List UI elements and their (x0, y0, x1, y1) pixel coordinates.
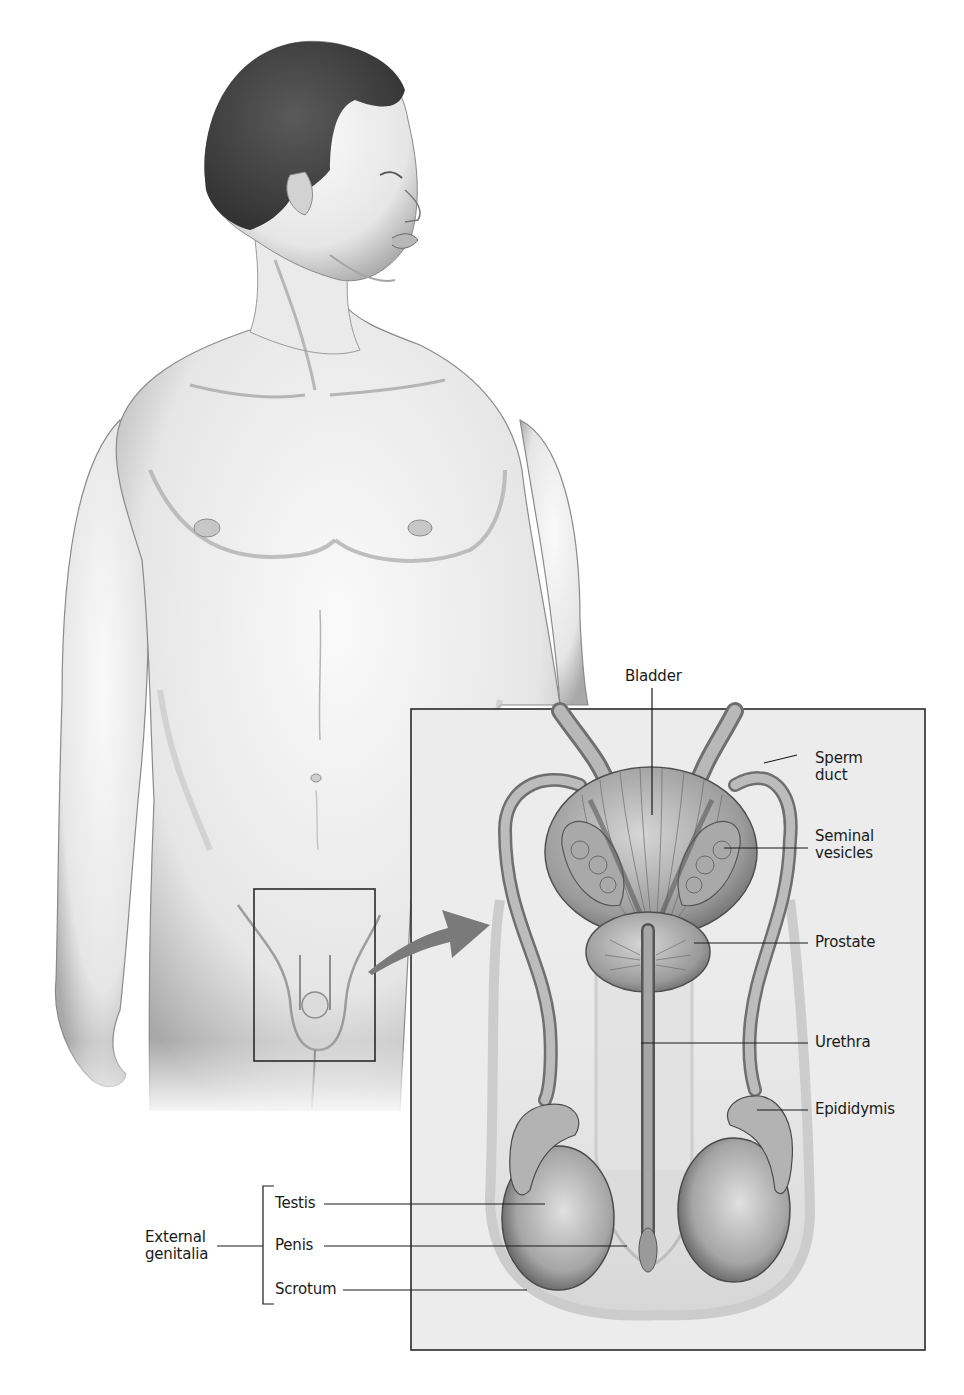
label-bladder: Bladder (625, 668, 682, 685)
magnified-inset (411, 709, 925, 1350)
navel (311, 774, 321, 782)
label-urethra: Urethra (815, 1034, 870, 1051)
label-testis: Testis (275, 1195, 315, 1212)
label-epididymis: Epididymis (815, 1101, 895, 1118)
label-prostate: Prostate (815, 934, 875, 951)
label-external-genitalia: External genitalia (145, 1229, 208, 1263)
anatomy-illustration (0, 0, 964, 1395)
label-scrotum: Scrotum (275, 1281, 336, 1298)
nipple-right (408, 520, 432, 536)
label-penis: Penis (275, 1237, 313, 1254)
label-seminal-vesicles: Seminal vesicles (815, 828, 874, 862)
label-sperm-duct: Sperm duct (815, 750, 863, 784)
nipple-left (194, 519, 220, 537)
